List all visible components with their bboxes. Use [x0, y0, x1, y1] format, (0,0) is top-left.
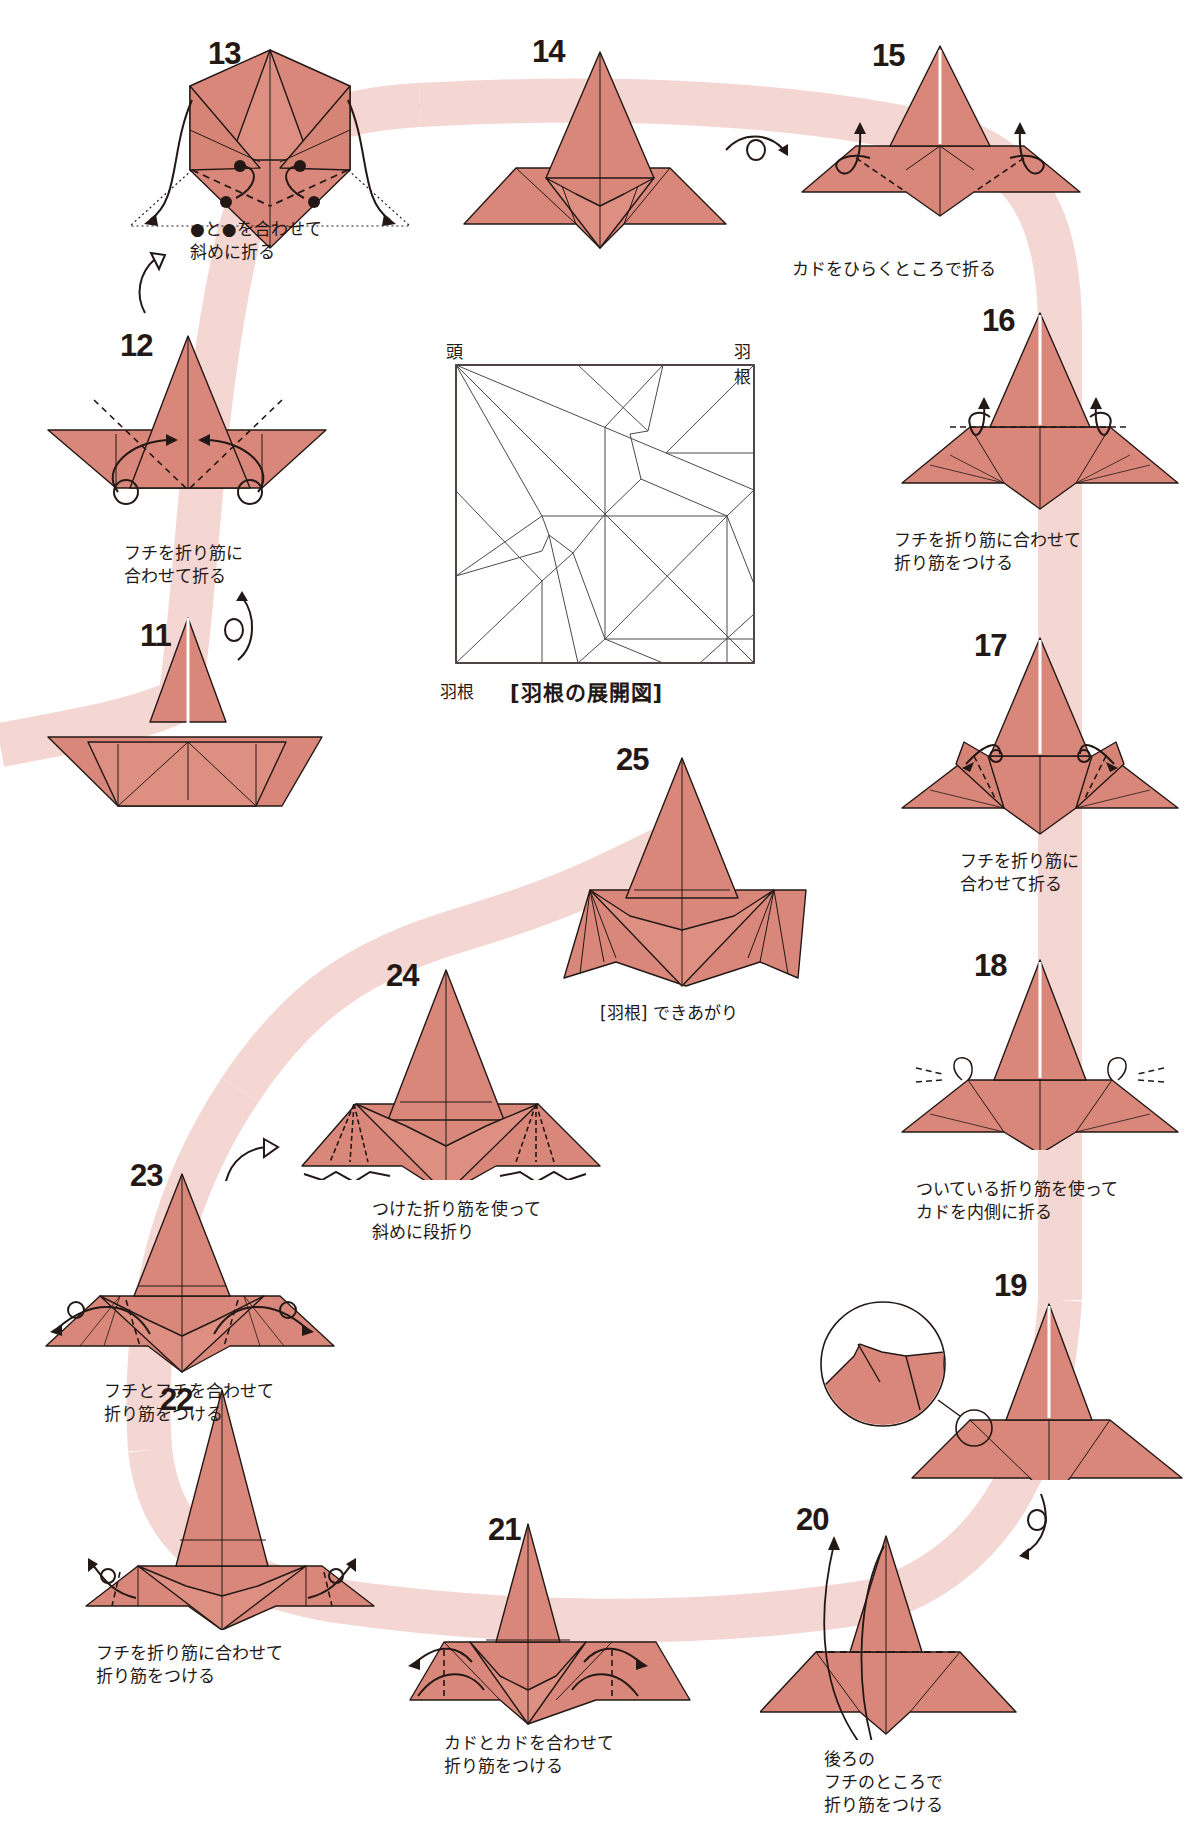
step-caption: カドとカドを合わせて 折り筋をつける [444, 1732, 614, 1778]
crease-pattern-title: [羽根の展開図] [510, 676, 663, 706]
step-17-figure [890, 630, 1190, 840]
turn-over-icon [220, 585, 260, 665]
step-19: 19 [820, 1260, 1200, 1480]
step-20: 20 後ろの フチのところで 折り筋をつける [760, 1500, 1060, 1831]
crease-pattern: 頭 羽根 羽根 [440, 330, 760, 730]
step-19-figure [820, 1260, 1200, 1480]
step-14: 14 [450, 30, 750, 260]
crease-label-head: 頭 [446, 338, 463, 363]
step-20-figure [760, 1500, 1060, 1740]
step-17: 17 フチを折り筋に 合わせて折る [900, 630, 1200, 900]
step-caption: フチを折り筋に 合わせて折る [960, 850, 1079, 896]
crease-pattern-diagram [455, 364, 755, 664]
step-14-figure [450, 30, 750, 260]
step-caption: ●と●を合わせて 斜めに折る [190, 218, 322, 264]
turn-over-icon [722, 128, 792, 168]
step-12: 12 フチを折り筋に 合わせて折る [40, 330, 340, 590]
next-step-arrow-icon [222, 1135, 282, 1185]
step-11-figure [40, 610, 340, 810]
step-21: 21 カドとカドを合わせて 折り筋をつける [400, 1500, 700, 1780]
step-15: 15 カドをひらくところで折る [790, 40, 1090, 280]
crease-label-wing-left: 羽根 [440, 678, 474, 703]
step-caption: フチを折り筋に合わせて 折り筋をつける [96, 1642, 283, 1688]
step-21-figure [400, 1500, 700, 1730]
step-23: 23 フチとフチを合わせて 折り筋をつける [40, 1150, 340, 1430]
step-caption: ついている折り筋を使って カドを内側に折る [916, 1178, 1118, 1224]
step-18: 18 ついている折り筋を使って カドを内側に折る [900, 950, 1200, 1230]
step-25: 25 [羽根] できあがり [560, 730, 840, 1030]
step-11: 11 [40, 610, 340, 810]
step-caption: カドをひらくところで折る [792, 258, 996, 281]
step-caption: フチとフチを合わせて 折り筋をつける [104, 1380, 274, 1426]
step-caption: フチを折り筋に 合わせて折る [124, 542, 243, 588]
step-caption: つけた折り筋を使って 斜めに段折り [372, 1198, 541, 1244]
step-12-figure [40, 330, 340, 530]
step-18-figure [890, 950, 1190, 1150]
step-16-figure [890, 305, 1190, 515]
step-16: 16 フチを折り筋に合わせて 折り筋をつける [900, 305, 1200, 565]
step-13: 13 ●と●を合わせて [110, 30, 430, 310]
step-caption: 後ろの フチのところで 折り筋をつける [824, 1748, 943, 1817]
step-caption: [羽根] できあがり [600, 1002, 738, 1025]
step-25-figure [560, 730, 840, 990]
step-23-figure [40, 1150, 340, 1380]
step-15-figure [790, 40, 1090, 240]
step-caption: フチを折り筋に合わせて 折り筋をつける [894, 529, 1081, 575]
